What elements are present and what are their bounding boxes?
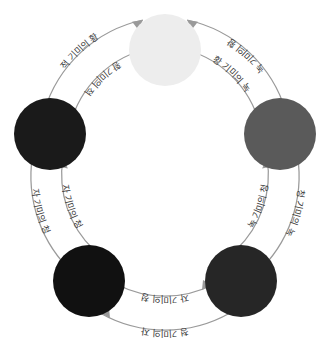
node-bottom-right (205, 245, 277, 317)
edge-label-yellow-to-red: 황 기미의 적 (83, 59, 123, 98)
color-cycle-diagram: 적 기미의 황 황 기미의 적 녹 기미의 황 황 기미의 녹 녹 기미의 청 … (0, 0, 330, 352)
node-right (244, 98, 316, 170)
edge-label-red-to-yellow: 적 기미의 황 (58, 30, 101, 71)
node-top (129, 14, 201, 86)
edge-label-blue-to-green: 청 기미의 녹 (284, 189, 307, 238)
edge-green-to-blue (236, 158, 272, 250)
edge-label-green-to-blue: 녹 기미의 청 (245, 184, 270, 230)
edge-label-purple-to-blue: 자 기미의 청 (140, 292, 190, 305)
edge-label-red-to-purple: 자 기미의 청 (60, 184, 85, 230)
edge-green-to-yellow (185, 19, 286, 112)
edge-red-to-purple (58, 158, 94, 250)
edge-blue-to-purple (100, 308, 230, 330)
edge-purple-to-blue (118, 280, 212, 296)
edge-label-purple-to-red: 자 기미의 청 (30, 188, 53, 235)
cycle-canvas: 적 기미의 황 황 기미의 적 녹 기미의 황 황 기미의 녹 녹 기미의 청 … (0, 0, 330, 352)
node-left (14, 98, 86, 170)
edge-label-blue-to-purple: 청 기미의 자 (140, 326, 190, 339)
node-bottom-left (53, 245, 125, 317)
